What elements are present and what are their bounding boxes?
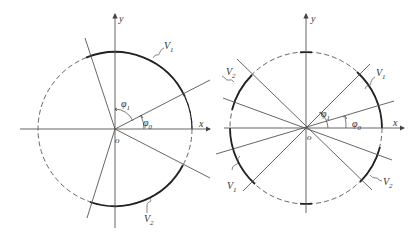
left-leader-v2 xyxy=(147,198,151,213)
left-origin-label: o xyxy=(115,135,120,145)
left-phi1-label: φ1 xyxy=(121,98,130,112)
right-line-phi0 xyxy=(216,101,394,154)
right-angle-arc-phi0 xyxy=(345,117,346,128)
left-leader-v1 xyxy=(153,48,164,58)
right-arc-v1-lower xyxy=(230,128,255,184)
right-diagram: y x o φ1 φ0 V1 V2 V1 V2 xyxy=(216,13,404,213)
left-y-label: y xyxy=(118,13,124,24)
right-arc-v1-upper xyxy=(357,72,382,128)
left-diagram: y x o φ1 φ0 V1 V2 xyxy=(20,13,210,228)
right-y-label: y xyxy=(310,13,316,24)
left-arc-v2 xyxy=(90,165,183,206)
right-x-label: x xyxy=(392,117,398,128)
right-origin-label: o xyxy=(307,132,312,142)
right-phi1-label: φ1 xyxy=(321,108,330,122)
diagram-canvas: y x o φ1 φ0 V1 V2 xyxy=(0,0,418,239)
right-v2-upper-label: V2 xyxy=(226,66,236,80)
diagram-stage: y x o φ1 φ0 V1 V2 xyxy=(0,0,418,239)
left-x-label: x xyxy=(198,118,204,129)
right-line-wnw-ese xyxy=(223,98,392,160)
right-v1-upper-label: V1 xyxy=(376,67,386,81)
right-v1-lower-label: V1 xyxy=(227,180,237,194)
left-arc-v1 xyxy=(86,52,185,96)
left-v1-label: V1 xyxy=(164,40,174,54)
left-v2-label: V2 xyxy=(144,213,154,227)
left-arc-v1-tail xyxy=(185,96,192,129)
left-angle-arc-phi1 xyxy=(115,109,133,121)
right-leader-v2-lower xyxy=(370,175,382,181)
right-v2-lower-label: V2 xyxy=(383,176,393,190)
left-line-lower-right xyxy=(115,129,210,178)
right-phi0-label: φ0 xyxy=(352,118,362,132)
